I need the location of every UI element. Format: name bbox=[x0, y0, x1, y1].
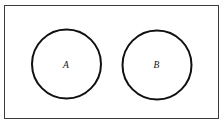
venn-diagram-figure: A B bbox=[0, 0, 224, 125]
set-a-label: A bbox=[62, 60, 69, 70]
set-b-label: B bbox=[154, 60, 160, 70]
venn-diagram-svg: A B bbox=[0, 0, 224, 125]
